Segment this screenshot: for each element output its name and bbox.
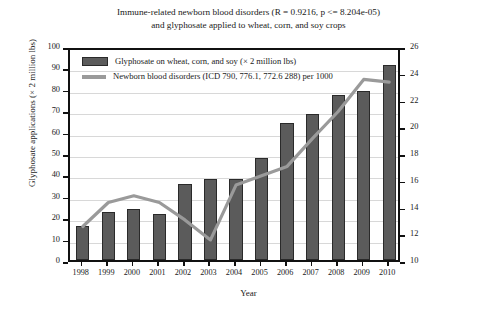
y-axis-left-tick-label: 40 <box>34 170 60 179</box>
chart-legend: Glyphosate on wheat, corn, and soy (× 2 … <box>82 54 333 84</box>
y-axis-right-tick-label: 14 <box>410 203 436 212</box>
legend-label-glyphosate: Glyphosate on wheat, corn, and soy (× 2 … <box>115 54 296 69</box>
x-axis-tick-label: 2010 <box>367 268 407 277</box>
y-axis-left-tick-label: 30 <box>34 192 60 201</box>
y-axis-left-tick-label: 60 <box>34 128 60 137</box>
y-axis-right-tick-label: 26 <box>410 42 436 51</box>
y-axis-left-tick-label: 20 <box>34 213 60 222</box>
y-axis-right-tick-label: 18 <box>410 149 436 158</box>
y-axis-right-tick-label: 20 <box>410 122 436 131</box>
y-axis-left-tick-label: 10 <box>34 235 60 244</box>
y-axis-left-tick-mark <box>63 262 68 264</box>
y-axis-left-tick-label: 70 <box>34 106 60 115</box>
y-axis-right-tick-label: 16 <box>410 176 436 185</box>
x-axis-label: Year <box>0 288 497 298</box>
y-axis-left-tick-label: 80 <box>34 85 60 94</box>
y-axis-left-tick-label: 100 <box>34 42 60 51</box>
legend-label-blood-disorders: Newborn blood disorders (ICD 790, 776.1,… <box>113 69 333 84</box>
bar-swatch-icon <box>82 57 108 66</box>
y-axis-right-tick-label: 24 <box>410 69 436 78</box>
y-axis-left-tick-label: 0 <box>34 256 60 265</box>
line-series-path <box>83 79 389 240</box>
chart-plot-wrapper: Glyphosate applications (× 2 million lbs… <box>0 0 497 313</box>
legend-item-blood-disorders: Newborn blood disorders (ICD 790, 776.1,… <box>82 69 333 84</box>
line-swatch-icon <box>82 75 106 79</box>
y-axis-right-tick-label: 22 <box>410 96 436 105</box>
y-axis-right-tick-label: 10 <box>410 256 436 265</box>
y-axis-left-tick-label: 90 <box>34 63 60 72</box>
legend-item-glyphosate: Glyphosate on wheat, corn, and soy (× 2 … <box>82 54 333 69</box>
y-axis-right-tick-label: 12 <box>410 229 436 238</box>
y-axis-left-tick-label: 50 <box>34 149 60 158</box>
